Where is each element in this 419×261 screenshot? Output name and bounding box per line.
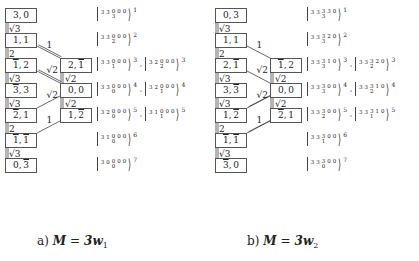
ket-entry-low: 2 — [370, 64, 374, 69]
ket-entry-low — [328, 164, 330, 169]
ket-entry: 00 — [112, 84, 116, 94]
ket-entry: 3 — [101, 10, 105, 20]
ket-entry: 3 — [311, 160, 315, 170]
ket-entry: 0 — [123, 9, 127, 19]
ket-entry: 3 — [316, 10, 320, 20]
ket-entry: 3 — [311, 35, 315, 45]
ket-entry: 2 — [327, 34, 331, 44]
ket-entry: 2 — [106, 110, 110, 120]
ket-row: 3 0 000 0 ⟩7 — [97, 157, 137, 171]
ket-entry-low: 2 — [322, 114, 326, 119]
left-link-label: √3 — [219, 149, 230, 159]
weight-box-right: 0, 0 — [60, 83, 92, 98]
ket-entry: 3 — [316, 60, 320, 70]
ket-entry: 3 — [316, 85, 320, 95]
ket-separator: , — [140, 61, 142, 68]
right-link-label: √2 — [65, 99, 76, 109]
ket-superscript: 3 — [133, 56, 137, 63]
ket-entry: 31 — [322, 134, 326, 144]
ket-entry: 3 — [316, 135, 320, 145]
ket-entry: 3 — [101, 85, 105, 95]
right-link-label: √2 — [275, 99, 286, 109]
ket-entry-low — [107, 90, 109, 95]
ket-entry: 33 — [322, 34, 326, 44]
ket-entry-low: 3 — [322, 14, 326, 19]
ket-row: 3 3 330 0 ⟩4,3 3 321 0 ⟩4 — [307, 82, 395, 96]
ket-entry: 1 — [327, 59, 331, 69]
weight-box-right: 1, 2 — [270, 58, 302, 73]
caption-prefix: a) — [37, 234, 49, 248]
ket-entry-low — [118, 39, 120, 44]
ket-entry-low — [124, 89, 126, 94]
ket-entry-low — [312, 40, 314, 45]
ket-angle: ⟩ — [338, 82, 341, 96]
ket-bar — [307, 132, 308, 146]
caption-lhs: M — [263, 234, 276, 248]
ket-entry-low — [328, 139, 330, 144]
ket-angle: ⟩ — [386, 107, 389, 121]
left-link-label: 2 — [219, 49, 225, 59]
ket-entry-low — [107, 165, 109, 170]
ket-superscript: 2 — [343, 31, 347, 38]
ket-entry-low — [334, 14, 336, 19]
caption-eq: = — [70, 234, 80, 248]
weight-box-left: 1, 2 — [215, 108, 247, 123]
weight-box-right: 2, 1 — [270, 108, 302, 123]
ket-entry-low: 2 — [370, 89, 374, 94]
ket-superscript: 6 — [343, 131, 347, 138]
ket-entry-low — [102, 165, 104, 170]
label-second: 1 — [233, 135, 239, 145]
ket-entry: 32 — [322, 109, 326, 119]
ket-entry-low — [107, 40, 109, 45]
ket-superscript: 3 — [343, 56, 347, 63]
caption-lhs: M — [53, 234, 66, 248]
ket-entry-low — [334, 139, 336, 144]
ket-entry-low: 1 — [160, 89, 164, 94]
ket-entry-low — [328, 39, 330, 44]
ket-entry: 0 — [117, 59, 121, 69]
ket-entry-low — [328, 89, 330, 94]
ket-entry-low — [155, 65, 157, 70]
ket-superscript: 4 — [181, 81, 185, 88]
ket-entry-low — [365, 115, 367, 120]
ket-entry: 0 — [165, 84, 169, 94]
ket-entry-low — [334, 64, 336, 69]
ket-entry: 3 — [106, 85, 110, 95]
ket-entry: 33 — [322, 9, 326, 19]
ket-row: 3 3 000 0 ⟩4,3 2 010 0 ⟩4 — [97, 82, 185, 96]
weight-box-left: 1, 1 — [5, 133, 37, 148]
ket-entry: 3 — [101, 135, 105, 145]
ket-angle: ⟩ — [128, 7, 131, 21]
ket-entry-low: 0 — [112, 114, 116, 119]
cross-link-label: 1 — [47, 115, 53, 125]
ket-entry: 3 — [364, 110, 368, 120]
ket-entry-low: 0 — [112, 139, 116, 144]
ket-row: 3 3 332 0 ⟩2 — [307, 32, 347, 46]
ket-entry: 0 — [117, 109, 121, 119]
ket-bar — [355, 107, 356, 121]
label-second: 1 — [233, 35, 239, 45]
caption-rhs: 3w — [295, 234, 314, 248]
ket-bar — [307, 157, 308, 171]
ket-entry-low: 0 — [322, 164, 326, 169]
ket-bar — [307, 107, 308, 121]
ket-row: 3 3 030 0 ⟩1 — [97, 7, 137, 21]
ket-entry-low: 1 — [112, 64, 116, 69]
ket-bar — [307, 32, 308, 46]
ket-entry: 3 — [327, 9, 331, 19]
ket-entry-low — [317, 40, 319, 45]
ket-angle: ⟩ — [176, 107, 179, 121]
ket-entry-low — [365, 90, 367, 95]
left-link-label: √3 — [219, 24, 230, 34]
weight-box-left: 2, 1 — [5, 108, 37, 123]
ket-entry: 0 — [171, 109, 175, 119]
ket-entry-low — [328, 114, 330, 119]
ket-entry: 0 — [381, 109, 385, 119]
ket-entry-low — [102, 15, 104, 20]
ket-entry-low — [376, 64, 378, 69]
ket-angle: ⟩ — [338, 57, 341, 71]
ket-entry-low: 0 — [112, 164, 116, 169]
ket-angle: ⟩ — [386, 57, 389, 71]
ket-bar — [145, 82, 146, 96]
ket-bar — [307, 57, 308, 71]
